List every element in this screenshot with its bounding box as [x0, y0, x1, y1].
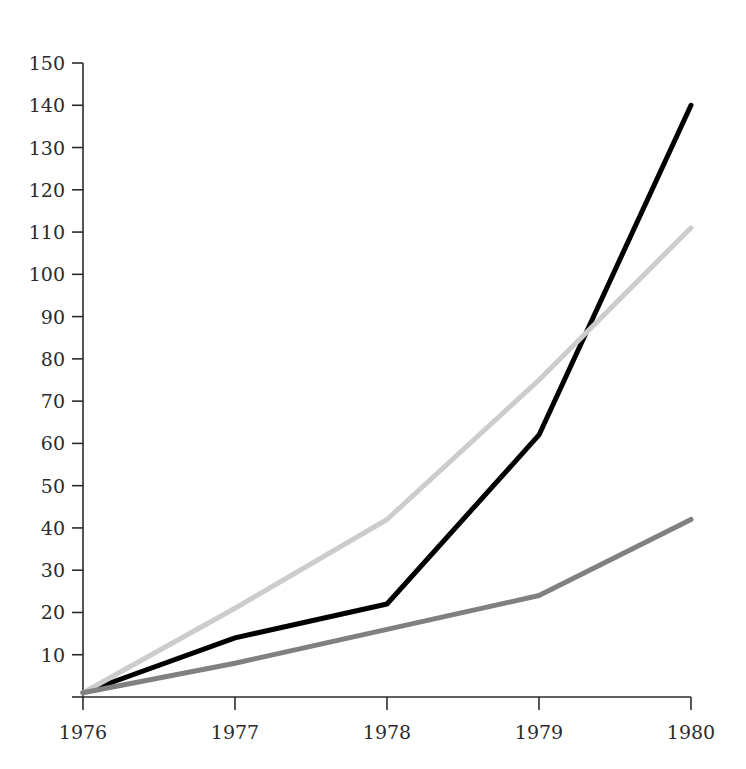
x-tick-label: 1976 — [59, 721, 107, 743]
y-tick-label: 70 — [41, 390, 65, 412]
chart-canvas: 102030405060708090100110120130140150 197… — [0, 0, 746, 769]
y-tick-label: 120 — [29, 179, 65, 201]
x-tick-label: 1978 — [363, 721, 411, 743]
y-tick-label: 10 — [41, 644, 65, 666]
y-tick-label: 100 — [29, 263, 65, 285]
y-tick-label: 90 — [41, 306, 65, 328]
x-axis-tick-marks — [83, 697, 691, 710]
y-tick-label: 130 — [29, 137, 65, 159]
x-tick-label: 1979 — [515, 721, 563, 743]
y-tick-label: 50 — [41, 475, 65, 497]
series-lines — [83, 105, 691, 693]
y-tick-label: 140 — [29, 94, 65, 116]
x-tick-label: 1977 — [211, 721, 259, 743]
y-tick-label: 20 — [41, 601, 65, 623]
y-tick-label: 80 — [41, 348, 65, 370]
series-line-series-dark — [83, 105, 691, 693]
y-tick-label: 110 — [29, 221, 65, 243]
y-axis-tick-labels: 102030405060708090100110120130140150 — [29, 52, 65, 666]
line-chart: 102030405060708090100110120130140150 197… — [0, 0, 746, 769]
y-tick-label: 30 — [41, 559, 65, 581]
x-axis-tick-labels: 19761977197819791980 — [59, 721, 715, 743]
y-tick-label: 150 — [29, 52, 65, 74]
y-tick-label: 60 — [41, 432, 65, 454]
y-tick-label: 40 — [41, 517, 65, 539]
y-axis-tick-marks — [72, 63, 83, 697]
x-tick-label: 1980 — [667, 721, 715, 743]
